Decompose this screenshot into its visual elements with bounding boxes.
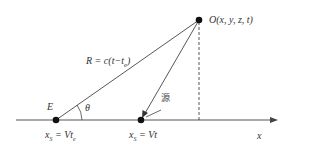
xs1-eq: = Vt — [52, 129, 73, 140]
x-axis-arrowhead-icon — [270, 117, 278, 123]
source-point-dot — [138, 117, 145, 124]
xs1-sub2: e — [73, 136, 76, 142]
distance-label-main: R = c(t−t — [86, 55, 124, 66]
xs2-eq: = Vt — [136, 129, 157, 140]
emission-label: E — [47, 102, 53, 112]
x-axis-label: x — [257, 131, 261, 141]
source-annotation: 源 — [161, 94, 170, 103]
distance-label-close: ) — [127, 55, 130, 66]
distance-label: R = c(t−te) — [86, 56, 130, 69]
source-pointer-line — [146, 110, 161, 117]
observer-label: O(x, y, z, t) — [209, 15, 253, 25]
observer-to-source-line — [144, 20, 199, 115]
theta-label: θ — [85, 103, 90, 113]
emission-point-dot — [53, 117, 60, 124]
source-position-label: xS = Vt — [129, 130, 157, 142]
angle-arc — [77, 105, 82, 120]
emission-position-label: xS = Vte — [45, 130, 76, 142]
observer-point-dot — [196, 17, 203, 24]
